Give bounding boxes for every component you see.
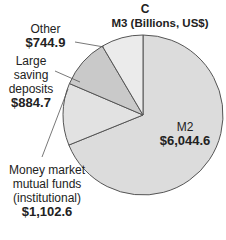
leader-other bbox=[75, 42, 104, 47]
label-m2: M2 $6,044.6 bbox=[150, 120, 220, 148]
label-lsd-line2: saving bbox=[3, 68, 59, 82]
label-other-value: $744.9 bbox=[18, 36, 73, 50]
label-m2-value: $6,044.6 bbox=[150, 134, 220, 148]
label-other-name: Other bbox=[30, 22, 60, 36]
label-other: Other $744.9 bbox=[18, 22, 73, 50]
label-mmmf-value: $1,102.6 bbox=[2, 205, 92, 219]
label-mmmf-line3: (institutional) bbox=[2, 191, 92, 205]
label-large-saving-deposits: Large saving deposits $884.7 bbox=[3, 54, 59, 110]
label-lsd-line3: deposits bbox=[3, 82, 59, 96]
label-lsd-value: $884.7 bbox=[3, 96, 59, 110]
label-m2-name: M2 bbox=[177, 120, 194, 134]
label-mmmf-line2: mutual funds bbox=[2, 177, 92, 191]
label-mmmf-line1: Money market bbox=[2, 163, 92, 177]
label-lsd-line1: Large bbox=[3, 54, 59, 68]
label-money-market-funds: Money market mutual funds (institutional… bbox=[2, 163, 92, 219]
